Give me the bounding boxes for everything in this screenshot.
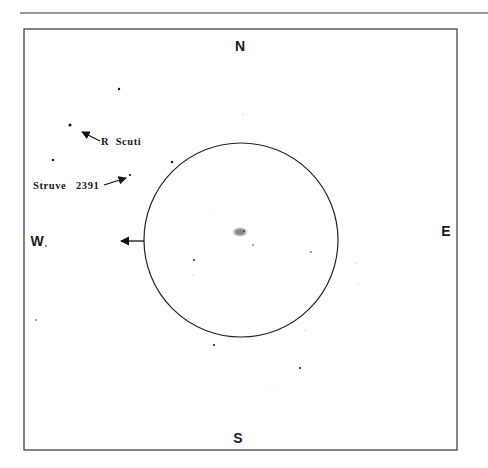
star [193, 259, 195, 261]
star [305, 330, 306, 331]
star [69, 124, 72, 127]
compass-south-label: S [233, 430, 242, 446]
star [126, 149, 127, 150]
star [358, 284, 359, 285]
star [45, 245, 47, 247]
star [310, 251, 312, 253]
star [213, 213, 214, 214]
star [272, 390, 273, 391]
star [118, 88, 120, 90]
star [35, 319, 36, 320]
compass-north-label: N [235, 38, 245, 54]
pointer-arrow-r-scuti-icon [82, 132, 100, 141]
compass-east-label: E [441, 223, 450, 239]
chart-frame [24, 29, 457, 450]
star [252, 244, 253, 245]
star [213, 344, 215, 346]
star [356, 263, 357, 264]
compass-west-label: W [30, 233, 44, 249]
object-labels: R Scuti Struve 2391 [33, 132, 141, 191]
pointer-arrow-struve-2391-icon [104, 178, 126, 185]
star [171, 161, 173, 163]
star [299, 367, 301, 369]
star [52, 159, 54, 161]
star [129, 174, 131, 176]
star [243, 114, 244, 115]
finder-chart: N S E W R Scuti Struve 2391 [0, 0, 488, 468]
nebulous-target [232, 227, 248, 237]
star [193, 275, 194, 276]
eyepiece-field-circle [144, 143, 338, 337]
label-struve-2391: Struve 2391 [33, 180, 99, 191]
label-r-scuti: R Scuti [101, 136, 141, 147]
